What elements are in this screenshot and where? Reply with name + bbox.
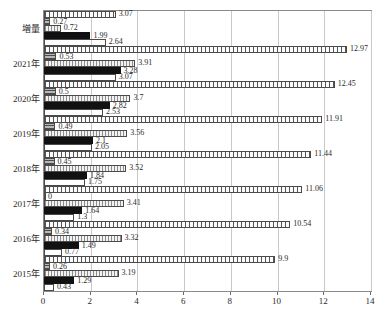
bar-series-2[interactable] [44,123,55,130]
bar-series-2[interactable] [44,158,55,165]
x-tick-label: 14 [366,296,375,306]
x-tick [277,292,278,295]
bar-value-label: 3.52 [129,164,143,172]
bar-series-5[interactable] [44,214,74,221]
bar-series-3[interactable] [44,165,126,172]
x-tick [43,292,44,295]
bar-value-label: 3.07 [119,73,133,81]
bar-value-label: 2.05 [95,143,109,151]
bar-row: 2.53 [44,109,371,116]
bar-series-1[interactable] [44,256,275,263]
bar-row: 0.34 [44,228,371,235]
bar-value-label: 3.19 [122,269,136,277]
bar-series-5[interactable] [44,144,92,151]
bar-series-2[interactable] [44,88,56,95]
bar-value-label: 1.75 [88,178,102,186]
bar-value-label: 0.43 [57,283,71,291]
bar-series-3[interactable] [44,25,61,32]
bar-series-1[interactable] [44,116,322,123]
bar-row: 0 [44,193,371,200]
bar-value-label: 11.06 [305,185,323,193]
bar-value-label: 3.07 [119,10,133,18]
bar-series-5[interactable] [44,249,62,256]
bar-value-label: 3.32 [125,234,139,242]
x-tick-label: 12 [319,296,328,306]
bar-series-5[interactable] [44,109,103,116]
bar-row: 2.1 [44,137,371,144]
bar-value-label: 11.44 [314,150,332,158]
bar-series-2[interactable] [44,193,46,200]
category-label: 2016年 [0,232,40,245]
bar-row: 9.9 [44,256,371,263]
bar-value-label: 3.91 [138,59,152,67]
x-tick [230,292,231,295]
bar-value-label: 3.41 [127,199,141,207]
bar-series-2[interactable] [44,228,52,235]
bar-value-label: 1.3 [77,213,87,221]
x-tick-label: 4 [134,296,139,306]
bar-series-5[interactable] [44,179,85,186]
bar-row: 3.56 [44,130,371,137]
bar-series-1[interactable] [44,151,311,158]
bar-series-5[interactable] [44,39,106,46]
bar-series-5[interactable] [44,284,54,291]
bar-row: 11.44 [44,151,371,158]
bar-value-label: 2.64 [109,38,123,46]
x-tick-label: 6 [181,296,186,306]
bar-row: 3.28 [44,67,371,74]
bar-row: 3.7 [44,95,371,102]
bar-value-label: 3.56 [130,129,144,137]
x-tick [370,292,371,295]
bar-row: 1.3 [44,214,371,221]
bar-series-2[interactable] [44,18,50,25]
category-label: 2020年 [0,92,40,105]
bar-series-2[interactable] [44,263,50,270]
bar-value-label: 12.45 [338,80,356,88]
bar-series-1[interactable] [44,46,347,53]
x-tick [136,292,137,295]
bar-row: 2.64 [44,39,371,46]
bar-value-label: 11.91 [325,115,343,123]
category-label: 2018年 [0,162,40,175]
bar-value-label: 12.97 [350,45,368,53]
bar-row: 0.5 [44,88,371,95]
bar-value-label: 10.54 [293,220,311,228]
plot-area: 3.070.270.721.992.6412.970.533.913.283.0… [43,10,372,292]
category-label: 2021年 [0,57,40,70]
bar-row: 11.91 [44,116,371,123]
bar-series-1[interactable] [44,221,290,228]
bar-row: 0.26 [44,263,371,270]
bar-row: 0.53 [44,53,371,60]
bar-series-2[interactable] [44,53,56,60]
bar-series-1[interactable] [44,186,302,193]
bar-series-4[interactable] [44,32,90,39]
bar-row: 1.99 [44,32,371,39]
x-tick [183,292,184,295]
bar-row: 0.27 [44,18,371,25]
bar-value-label: 3.7 [133,94,143,102]
category-label: 2017年 [0,197,40,210]
bar-series-4[interactable] [44,172,87,179]
bar-row: 12.45 [44,81,371,88]
bar-row: 0.49 [44,123,371,130]
bar-row: 0.45 [44,158,371,165]
bar-series-3[interactable] [44,60,135,67]
bar-row: 3.91 [44,60,371,67]
bar-value-label: 0.77 [65,248,79,256]
bar-row: 11.06 [44,186,371,193]
gridline [371,11,372,291]
x-tick [90,292,91,295]
category-label: 2019年 [0,127,40,140]
bar-series-1[interactable] [44,81,335,88]
x-tick [323,292,324,295]
bar-series-4[interactable] [44,67,121,74]
bar-row: 10.54 [44,221,371,228]
bar-series-3[interactable] [44,200,124,207]
x-axis: 02468101214 [43,292,372,310]
x-tick-label: 2 [87,296,92,306]
bar-series-4[interactable] [44,137,93,144]
bar-series-4[interactable] [44,102,110,109]
bar-series-3[interactable] [44,130,127,137]
bar-series-5[interactable] [44,74,116,81]
x-tick-label: 0 [41,296,46,306]
